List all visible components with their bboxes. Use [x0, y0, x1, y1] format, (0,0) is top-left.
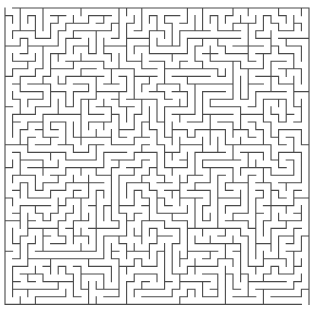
maze-walls [5, 8, 309, 304]
maze-grid [0, 0, 318, 310]
maze [0, 0, 318, 310]
